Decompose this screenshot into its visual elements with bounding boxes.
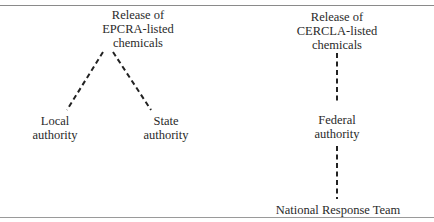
node-epcra-release: Release of EPCRA-listed chemicals (78, 8, 198, 50)
node-text-line: Release of (277, 10, 397, 24)
node-local-authority: Local authority (20, 114, 90, 142)
node-text-line: EPCRA-listed (78, 22, 198, 36)
node-text-line: Local (20, 114, 90, 128)
node-text-line: State (131, 114, 201, 128)
node-text-line: authority (20, 128, 90, 142)
edge-epcra-to-local (67, 52, 103, 110)
node-text-line: National Response Team (272, 203, 404, 217)
node-text-line: chemicals (277, 38, 397, 52)
node-text-line: Release of (78, 8, 198, 22)
node-text-line: Federal (297, 113, 377, 127)
node-text-line: authority (297, 127, 377, 141)
edge-epcra-to-state (113, 52, 151, 110)
node-state-authority: State authority (131, 114, 201, 142)
node-text-line: CERCLA-listed (277, 24, 397, 38)
node-text-line: chemicals (78, 36, 198, 50)
node-text-line: authority (131, 128, 201, 142)
node-federal-authority: Federal authority (297, 113, 377, 141)
node-cercla-release: Release of CERCLA-listed chemicals (277, 10, 397, 52)
node-national-response-team: National Response Team (272, 203, 404, 217)
